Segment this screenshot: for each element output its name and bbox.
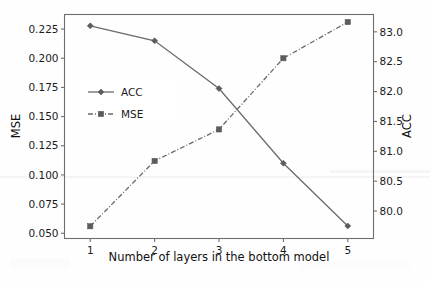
y-tick-label: 0.075 [28, 198, 58, 210]
y2-tick-label: 83.0 [380, 26, 403, 38]
y-tick-label: 0.225 [28, 23, 58, 35]
data-point-acc [87, 23, 93, 29]
data-point-mse [345, 19, 350, 24]
figure-canvas: 12345 0.0500.0750.1000.1250.1500.1750.20… [0, 0, 430, 282]
y-axis-left-tick-labels: 0.0500.0750.1000.1250.1500.1750.2000.225 [28, 23, 58, 239]
legend-label-mse: MSE [121, 108, 143, 120]
y-tick-label: 0.175 [28, 81, 58, 93]
plot-frame [65, 15, 374, 239]
y-tick-label: 0.100 [28, 169, 58, 181]
data-point-mse [88, 224, 93, 229]
chart-legend: ACCMSE [80, 78, 178, 123]
y2-tick-label: 82.5 [380, 55, 403, 67]
y-axis-left-title: MSE [9, 114, 23, 139]
y-axis-right-title: ACC [400, 114, 414, 138]
legend-label-acc: ACC [121, 86, 143, 98]
x-tick-label: 5 [344, 244, 351, 256]
x-axis-title: Number of layers in the bottom model [109, 250, 330, 264]
line-chart: 12345 0.0500.0750.1000.1250.1500.1750.20… [0, 0, 430, 282]
series-line-mse [90, 22, 348, 226]
data-point-mse [216, 127, 221, 132]
legend-marker-mse [98, 111, 103, 116]
y-tick-label: 0.050 [28, 227, 58, 239]
x-tick-label: 1 [87, 244, 94, 256]
y2-tick-label: 81.0 [380, 145, 403, 157]
series-line-acc [90, 26, 348, 226]
y2-tick-label: 80.5 [380, 175, 403, 187]
y2-tick-label: 82.0 [380, 85, 403, 97]
y-tick-label: 0.200 [28, 52, 58, 64]
y-tick-label: 0.125 [28, 139, 58, 151]
series-layer [87, 19, 351, 228]
y2-tick-label: 80.0 [380, 205, 403, 217]
y-tick-label: 0.150 [28, 110, 58, 122]
data-point-mse [152, 158, 157, 163]
data-point-mse [281, 56, 286, 61]
